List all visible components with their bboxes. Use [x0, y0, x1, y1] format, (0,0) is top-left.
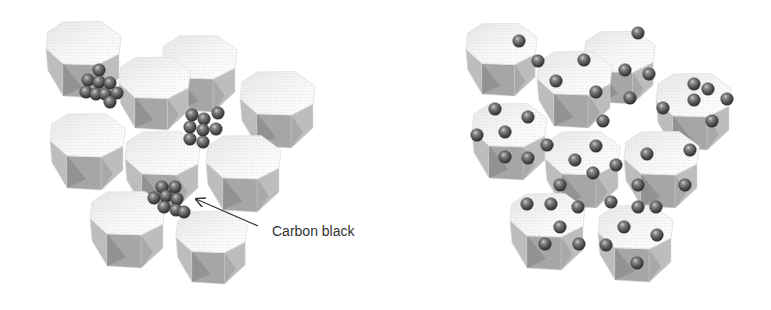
carbon-black-particle — [600, 239, 613, 252]
carbon-black-particle — [721, 93, 734, 106]
carbon-black-particle — [572, 201, 585, 214]
carbon-black-particle — [641, 148, 654, 161]
carbon-black-particle — [82, 74, 95, 87]
carbon-black-dispersion-diagram: Carbon black — [0, 0, 771, 310]
carbon-black-particle — [104, 96, 117, 109]
panel-dispersed — [466, 23, 733, 282]
carbon-black-particle — [578, 54, 591, 67]
carbon-black-particle — [522, 111, 535, 124]
carbon-black-particle — [657, 102, 670, 115]
carbon-black-particle — [618, 221, 631, 234]
carbon-black-particle — [631, 257, 644, 270]
polyhedral-particle — [466, 23, 538, 96]
carbon-black-particle — [684, 144, 697, 157]
carbon-black-particle — [632, 201, 645, 214]
carbon-black-particle — [489, 103, 502, 116]
carbon-black-particle — [198, 113, 211, 126]
carbon-black-particle — [148, 192, 161, 205]
carbon-black-particle — [93, 76, 106, 89]
carbon-black-particle — [532, 55, 545, 68]
carbon-black-particle — [597, 115, 610, 128]
carbon-black-particle — [569, 154, 582, 167]
carbon-black-particle — [521, 198, 534, 211]
carbon-black-particle — [643, 68, 656, 81]
carbon-black-particle — [632, 179, 645, 192]
panel-agglomerated — [46, 22, 315, 285]
polyhedral-particle — [119, 57, 190, 130]
carbon-black-particle — [499, 151, 512, 164]
polyhedral-particle — [176, 211, 248, 284]
carbon-black-particle — [212, 107, 225, 120]
carbon-black-particle — [605, 196, 618, 209]
carbon-black-particle — [688, 78, 701, 91]
carbon-black-particle — [513, 35, 526, 48]
carbon-black-particle — [184, 133, 197, 146]
polyhedral-particle — [472, 104, 547, 180]
carbon-black-particle — [171, 193, 184, 206]
carbon-black-particle — [545, 198, 558, 211]
carbon-black-particle — [160, 190, 173, 203]
carbon-black-particle — [158, 201, 171, 214]
carbon-black-particle — [186, 109, 199, 122]
carbon-black-particle — [624, 92, 637, 105]
carbon-black-particle — [688, 94, 701, 107]
carbon-black-particle — [210, 123, 223, 136]
carbon-black-particle — [550, 75, 563, 88]
carbon-black-particle — [702, 83, 715, 96]
polyhedral-particle — [206, 136, 281, 212]
carbon-black-particle — [197, 124, 210, 137]
carbon-black-particle — [93, 64, 106, 77]
carbon-black-particle — [178, 206, 191, 219]
carbon-black-particle — [679, 179, 692, 192]
carbon-black-particle — [590, 140, 603, 153]
carbon-black-particle — [619, 64, 632, 77]
carbon-black-particle — [650, 201, 663, 214]
carbon-black-particle — [197, 136, 210, 149]
carbon-black-label: Carbon black — [272, 223, 355, 239]
carbon-black-particle — [499, 126, 512, 139]
carbon-black-particle — [522, 152, 535, 165]
carbon-black-particle — [610, 159, 623, 172]
carbon-black-particle — [573, 238, 586, 251]
carbon-black-particle — [706, 115, 719, 128]
carbon-black-particle — [184, 121, 197, 134]
carbon-black-particle — [541, 139, 554, 152]
polyhedral-particle — [50, 114, 125, 190]
carbon-black-particle — [554, 179, 567, 192]
polyhedral-particle — [624, 132, 699, 208]
carbon-black-particle — [587, 167, 600, 180]
carbon-black-particle — [590, 86, 603, 99]
carbon-black-particle — [539, 238, 552, 251]
carbon-black-particle — [651, 229, 664, 242]
carbon-black-particle — [471, 129, 484, 142]
carbon-black-particle — [554, 221, 567, 234]
carbon-black-particle — [632, 27, 645, 40]
